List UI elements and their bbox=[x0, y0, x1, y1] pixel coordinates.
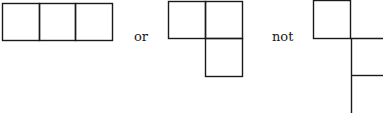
polyomino-diagram: or not bbox=[0, 0, 383, 113]
figure-straight-tromino bbox=[3, 4, 113, 41]
square bbox=[206, 2, 243, 39]
square bbox=[3, 4, 40, 41]
square bbox=[206, 39, 243, 77]
square bbox=[40, 4, 76, 41]
square bbox=[76, 4, 113, 41]
figure-disallowed bbox=[314, 1, 383, 114]
connector-not: not bbox=[272, 29, 294, 44]
connector-or: or bbox=[134, 29, 149, 44]
square bbox=[169, 2, 206, 39]
square bbox=[314, 1, 351, 39]
figure-l-tromino bbox=[169, 2, 243, 77]
